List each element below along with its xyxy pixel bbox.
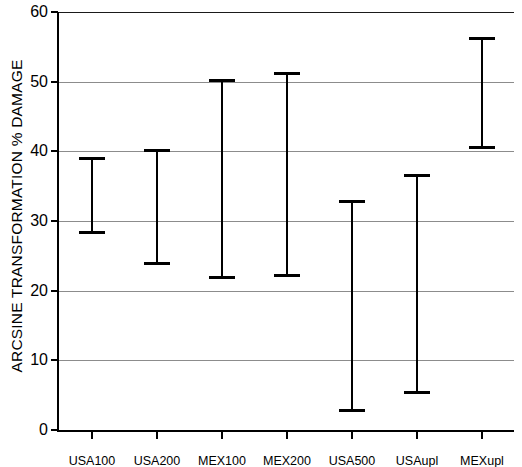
error-bar-stem <box>351 201 353 411</box>
error-bar-cap-upper <box>404 174 430 177</box>
error-bar-stem <box>481 38 483 147</box>
x-axis-tick-label: USA200 <box>134 454 181 467</box>
y-axis-tick-label: 50 <box>30 73 48 91</box>
y-axis-tick <box>51 290 58 292</box>
error-bar-stem <box>221 80 223 277</box>
x-axis-tick-label: MEX200 <box>263 454 311 467</box>
error-bar-cap-upper <box>469 37 495 40</box>
error-bar-cap-upper <box>209 79 235 82</box>
y-axis-tick-label: 30 <box>30 212 48 230</box>
y-axis-tick-label: 0 <box>39 421 48 439</box>
y-axis-tick <box>51 429 58 431</box>
error-bar-cap-lower <box>404 391 430 394</box>
error-bar-cap-lower <box>339 409 365 412</box>
error-bar-cap-upper <box>339 200 365 203</box>
gridline <box>59 12 514 13</box>
error-bar-cap-upper <box>274 72 300 75</box>
y-axis-tick <box>51 359 58 361</box>
error-bar-cap-lower <box>469 146 495 149</box>
y-axis-tick <box>51 81 58 83</box>
x-axis-tick-label: USAupl <box>396 454 438 467</box>
y-axis-tick <box>51 220 58 222</box>
error-bar-cap-lower <box>144 262 170 265</box>
y-axis-tick <box>51 150 58 152</box>
error-bar-chart: ARCSINE TRANSFORMATION % DAMAGE 01020304… <box>0 0 522 467</box>
error-bar-stem <box>286 73 288 275</box>
y-axis-tick-label: 20 <box>30 282 48 300</box>
x-axis-tick <box>481 431 483 439</box>
plot-area: 0102030405060USA100USA200MEX100MEX200USA… <box>57 12 514 432</box>
x-axis-tick <box>286 431 288 439</box>
x-axis-tick <box>351 431 353 439</box>
x-axis-tick <box>156 431 158 439</box>
error-bar-cap-upper <box>79 157 105 160</box>
gridline <box>59 360 514 361</box>
x-axis-tick <box>221 431 223 439</box>
y-axis-tick <box>51 11 58 13</box>
y-axis-title: ARCSINE TRANSFORMATION % DAMAGE <box>0 0 34 432</box>
x-axis-tick-label: USA500 <box>329 454 376 467</box>
error-bar-cap-upper <box>144 149 170 152</box>
y-axis-title-text: ARCSINE TRANSFORMATION % DAMAGE <box>8 59 26 372</box>
error-bar-stem <box>91 158 93 233</box>
x-axis-tick <box>91 431 93 439</box>
gridline <box>59 291 514 292</box>
error-bar-cap-lower <box>209 276 235 279</box>
y-axis-tick-label: 60 <box>30 3 48 21</box>
y-axis-tick-label: 10 <box>30 351 48 369</box>
x-axis-tick-label: MEXupl <box>460 454 504 467</box>
x-axis-tick-label: MEX100 <box>198 454 246 467</box>
error-bar-stem <box>156 150 158 263</box>
x-axis-tick-label: USA100 <box>69 454 116 467</box>
error-bar-stem <box>416 175 418 392</box>
error-bar-cap-lower <box>274 274 300 277</box>
x-axis-tick <box>416 431 418 439</box>
y-axis-tick-label: 40 <box>30 142 48 160</box>
error-bar-cap-lower <box>79 231 105 234</box>
